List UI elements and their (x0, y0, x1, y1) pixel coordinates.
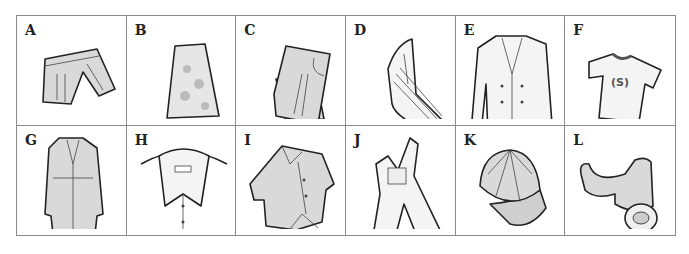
item-cell-g: G (17, 126, 127, 236)
tshirt-icon: (S) (575, 24, 667, 119)
shorts-icon (27, 24, 119, 119)
shirt-sleeve-icon (356, 24, 448, 119)
item-cell-d: D (346, 16, 456, 126)
blouse-icon (246, 134, 338, 229)
trench-coat-icon (27, 134, 119, 229)
clothing-grid: A B C D E (16, 15, 676, 236)
item-cell-b: B (127, 16, 237, 126)
item-cell-h: H (127, 126, 237, 236)
item-cell-c: C (236, 16, 346, 126)
item-cell-a: A (17, 16, 127, 126)
jacket-icon (466, 24, 558, 119)
item-cell-j: J (346, 126, 456, 236)
belt-icon (575, 134, 667, 229)
item-cell-f: F (S) (565, 16, 675, 126)
cap-icon (466, 134, 558, 229)
shirt-print: (S) (611, 76, 629, 89)
overalls-icon (356, 134, 448, 229)
item-cell-l: L (565, 126, 675, 236)
item-cell-i: I (236, 126, 346, 236)
item-cell-k: K (456, 126, 566, 236)
skirt-icon (137, 24, 229, 119)
item-cell-e: E (456, 16, 566, 126)
collar-shirt-icon (137, 134, 229, 229)
jeans-icon (246, 24, 338, 119)
